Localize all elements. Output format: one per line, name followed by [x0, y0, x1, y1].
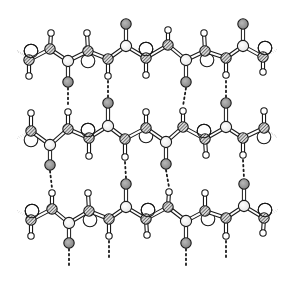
nitrogen-atom — [63, 124, 73, 134]
nitrogen-atom — [163, 40, 173, 50]
carbonyl-carbon-atom — [160, 136, 171, 147]
hydrogen-atom — [201, 30, 207, 36]
hydrogen-atom — [144, 232, 150, 238]
nitrogen-atom — [238, 133, 248, 143]
hydrogen-atom — [28, 233, 34, 239]
oxygen-atom — [181, 238, 191, 248]
hydrogen-atom — [260, 69, 266, 75]
nitrogen-atom — [221, 53, 231, 63]
chain-strand-3 — [17, 179, 278, 248]
hydrogen-atom — [240, 152, 246, 158]
hydrogen-atom — [65, 109, 71, 115]
hydrogen-atom — [106, 233, 112, 239]
carbonyl-carbon-atom — [180, 54, 191, 65]
hydrogen-atom — [48, 30, 54, 36]
alpha-carbon-atom — [200, 206, 210, 216]
carbonyl-carbon-atom — [63, 217, 74, 228]
carbonyl-carbon-atom — [120, 40, 131, 51]
hydrogen-atom — [223, 233, 229, 239]
hydrogen-atom — [86, 153, 92, 159]
oxygen-atom — [161, 159, 171, 169]
polypeptide-chains — [17, 19, 278, 248]
hydrogen-atom — [202, 190, 208, 196]
oxygen-atom — [238, 19, 248, 29]
oxygen-atom — [121, 179, 131, 189]
carbonyl-carbon-atom — [237, 40, 248, 51]
chain-strand-2 — [17, 98, 277, 170]
hydrogen-atom — [26, 73, 32, 79]
nitrogen-atom — [104, 214, 114, 224]
carbonyl-carbon-atom — [62, 55, 73, 66]
hydrogen-bond — [50, 171, 52, 188]
hydrogen-atom — [203, 152, 209, 158]
alpha-carbon-atom — [24, 55, 34, 65]
oxygen-atom — [239, 179, 249, 189]
nitrogen-atom — [103, 54, 113, 64]
nitrogen-atom — [120, 134, 130, 144]
oxygen-atom — [121, 19, 131, 29]
hydrogen-atom — [165, 27, 171, 33]
carbonyl-carbon-atom — [238, 200, 249, 211]
alpha-carbon-atom — [26, 126, 36, 136]
alpha-carbon-atom — [83, 46, 93, 56]
hydrogen-atom — [143, 72, 149, 78]
hydrogen-bond — [183, 88, 186, 106]
oxygen-atom — [103, 98, 113, 108]
nitrogen-atom — [47, 204, 57, 214]
alpha-carbon-atom — [258, 52, 268, 62]
nitrogen-atom — [45, 44, 55, 54]
carbonyl-carbon-atom — [44, 139, 55, 150]
chain-strand-1 — [17, 19, 277, 87]
nitrogen-atom — [221, 213, 231, 223]
oxygen-atom — [64, 238, 74, 248]
carbonyl-carbon-atom — [180, 215, 191, 226]
hydrogen-atom — [166, 189, 172, 195]
hydrogen-atom — [180, 108, 186, 114]
hydrogen-atom — [260, 230, 266, 236]
alpha-carbon-atom — [200, 46, 210, 56]
hydrogen-bond — [125, 162, 126, 178]
nitrogen-atom — [163, 202, 173, 212]
hydrogen-atom — [49, 190, 55, 196]
hydrogen-atom — [85, 190, 91, 196]
hydrogen-atom — [223, 72, 229, 78]
carbonyl-carbon-atom — [102, 120, 113, 131]
beta-sheet-diagram — [0, 0, 296, 283]
hydrogen-bond — [166, 170, 169, 187]
oxygen-atom — [181, 77, 191, 87]
hydrogen-bond — [243, 160, 244, 178]
hydrogen-atom — [122, 154, 128, 160]
hydrogen-atom — [84, 30, 90, 36]
hydrogen-atom — [105, 73, 111, 79]
hydrogen-atom — [261, 108, 267, 114]
alpha-carbon-atom — [141, 214, 151, 224]
oxygen-atom — [45, 160, 55, 170]
alpha-carbon-atom — [84, 206, 94, 216]
carbonyl-carbon-atom — [220, 121, 231, 132]
oxygen-atom — [221, 98, 231, 108]
oxygen-atom — [63, 77, 73, 87]
nitrogen-atom — [178, 122, 188, 132]
hydrogen-atom — [28, 110, 34, 116]
alpha-carbon-atom — [259, 123, 269, 133]
alpha-carbon-atom — [141, 123, 151, 133]
carbonyl-carbon-atom — [120, 201, 131, 212]
hydrogen-atom — [143, 109, 149, 115]
